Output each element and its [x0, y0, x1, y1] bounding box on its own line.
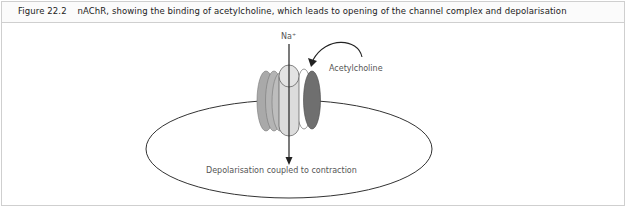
ligand-arrowhead: [308, 58, 317, 67]
subunit-binding-alpha: [304, 71, 321, 129]
cell-label: Depolarisation coupled to contraction: [206, 166, 357, 175]
ligand-label: Acetylcholine: [329, 64, 383, 73]
ligand-binding-arrow: [313, 42, 362, 60]
ion-label: Na⁺: [281, 32, 296, 41]
ion-flow-arrowhead: [286, 157, 293, 165]
nachr-diagram: Na⁺ Acetylcholine Depolarisation coupled…: [0, 0, 626, 207]
